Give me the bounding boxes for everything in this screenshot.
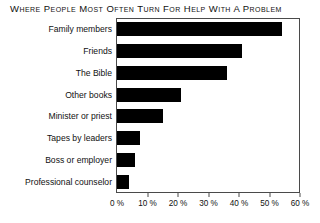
bar (117, 153, 135, 167)
x-tick-mark (178, 193, 179, 197)
category-label: Friends (0, 46, 112, 56)
x-axis-labels: 0 %10 %20 %30 %40 %50 %60 % (0, 199, 320, 213)
x-tick-mark (269, 193, 270, 197)
x-tick-label: 30 % (199, 199, 218, 208)
bar (117, 88, 181, 102)
bar (117, 175, 129, 189)
category-label: Minister or priest (0, 111, 112, 121)
bar (117, 22, 282, 36)
x-tick-mark (300, 193, 301, 197)
x-tick-label: 40 % (230, 199, 249, 208)
bar-chart: Where People Most Often Turn for Help Wi… (0, 0, 320, 223)
x-tick-mark (208, 193, 209, 197)
category-label: Tapes by leaders (0, 133, 112, 143)
category-label: Boss or employer (0, 155, 112, 165)
x-tick-label: 50 % (260, 199, 279, 208)
chart-title: Where People Most Often Turn for Help Wi… (10, 3, 282, 14)
x-axis-ticks (117, 193, 300, 198)
bar (117, 109, 163, 123)
bar (117, 131, 140, 145)
category-label: The Bible (0, 68, 112, 78)
x-tick-mark (239, 193, 240, 197)
category-axis: Family membersFriendsThe BibleOther book… (0, 18, 112, 193)
x-tick-label: 20 % (169, 199, 188, 208)
bar (117, 44, 242, 58)
category-label: Family members (0, 24, 112, 34)
category-label: Other books (0, 90, 112, 100)
bar (117, 66, 227, 80)
x-tick-label: 60 % (291, 199, 310, 208)
x-tick-mark (147, 193, 148, 197)
category-label: Professional counselor (0, 177, 112, 187)
x-tick-label: 0 % (110, 199, 124, 208)
x-tick-label: 10 % (138, 199, 157, 208)
bars-layer (117, 18, 300, 193)
